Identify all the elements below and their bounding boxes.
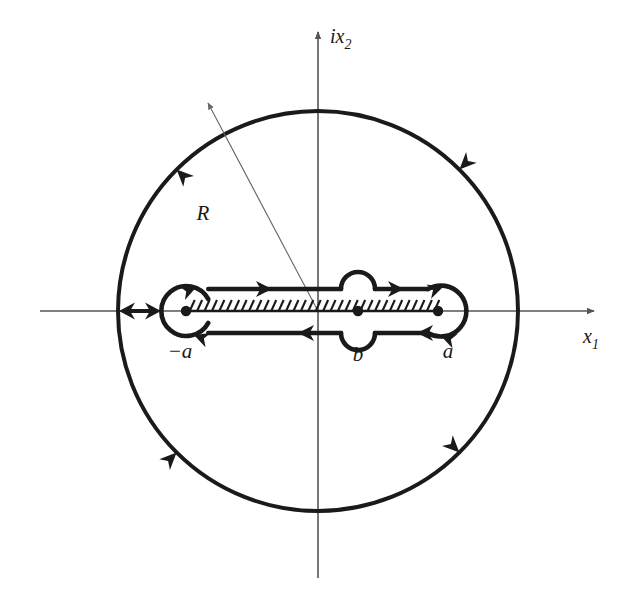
branch-cut-tick [205, 300, 210, 311]
branch-cut-tick [405, 300, 410, 311]
branch-point-label-b: b [353, 342, 364, 366]
branch-cut-tick [331, 300, 336, 311]
labels-group: ix2 x1 R −a b a [168, 25, 599, 366]
dot-minus-a [181, 306, 191, 316]
branch-cut-tick [286, 300, 291, 311]
branch-cut-tick [390, 300, 395, 311]
branch-cut-tick [397, 300, 402, 311]
branch-cut-tick [301, 300, 306, 311]
branch-cut-tick [271, 300, 276, 311]
dot-b [353, 306, 363, 316]
radius-span-double-arrow [119, 303, 161, 320]
branch-cut-tick [219, 300, 224, 311]
branch-cut-tick [264, 300, 269, 311]
branch-cut-tick [375, 300, 380, 311]
radius-marker [208, 103, 318, 311]
branch-cut-tick [308, 300, 313, 311]
branch-cut-tick [197, 300, 202, 311]
branch-cut-tick [427, 300, 432, 311]
branch-cut-tick [293, 300, 298, 311]
radius-label: R [196, 201, 210, 225]
branch-cut-tick [212, 300, 217, 311]
branch-cut-tick [382, 300, 387, 311]
circle-arrow-upper-left [171, 164, 194, 187]
branch-cut-tick [419, 300, 424, 311]
figure-canvas: ix2 x1 R −a b a [0, 0, 633, 603]
branch-point-label-minus-a: −a [168, 339, 193, 363]
circle-arrow-lower-left [159, 447, 182, 470]
imaginary-axis-label: ix2 [330, 25, 351, 52]
axes-group [40, 32, 594, 578]
branch-cut-tick [279, 300, 284, 311]
branch-cut-tick [345, 300, 350, 311]
circle-arrow-lower-right [442, 435, 465, 458]
real-axis-label: x1 [582, 325, 599, 352]
radius-leader-line [208, 103, 318, 311]
branch-cut-tick [368, 300, 373, 311]
branch-point-label-a: a [443, 339, 454, 363]
branch-cut-tick [234, 300, 239, 311]
b-bump-upper [341, 272, 375, 289]
branch-cut-tick [338, 300, 343, 311]
branch-cut-tick [249, 300, 254, 311]
branch-cut-tick [256, 300, 261, 311]
dot-a [433, 306, 443, 316]
branch-cut-tick [323, 300, 328, 311]
branch-cut-tick [227, 300, 232, 311]
branch-cut-tick [412, 300, 417, 311]
complex-plane-diagram: ix2 x1 R −a b a [0, 0, 633, 603]
circle-arrow-upper-right [454, 152, 477, 175]
branch-cut-hatching [186, 300, 439, 311]
branch-cut-tick [242, 300, 247, 311]
